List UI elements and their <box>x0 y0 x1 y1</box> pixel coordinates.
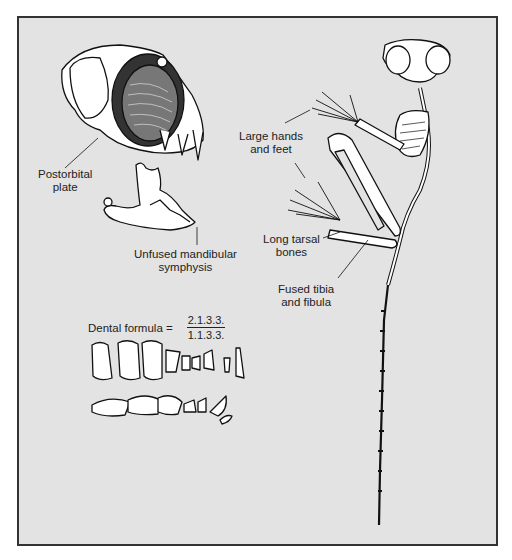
illustration <box>0 0 512 560</box>
label-line: symphysis <box>134 261 237 274</box>
label-line: Postorbital <box>38 168 92 181</box>
label-line: and fibula <box>278 296 334 309</box>
upper-teeth-drawing <box>92 341 244 380</box>
label-line: plate <box>38 181 92 194</box>
dental-formula-label: Dental formula = <box>88 322 173 334</box>
label-postorbital-plate: Postorbital plate <box>38 168 92 194</box>
label-line: Fused tibia <box>278 283 334 296</box>
dental-formula: Dental formula = 2.1.3.3. 1.1.3.3. <box>88 314 225 341</box>
mandible-drawing <box>104 163 195 230</box>
label-line: Unfused mandibular <box>134 248 237 261</box>
skull-drawing <box>62 45 204 160</box>
label-line: Long tarsal <box>263 233 320 246</box>
label-fused-tibia-and-fibula: Fused tibia and fibula <box>278 283 334 309</box>
dental-formula-fraction: 2.1.3.3. 1.1.3.3. <box>187 314 226 341</box>
label-line: bones <box>263 246 320 259</box>
label-large-hands-and-feet: Large hands and feet <box>239 130 303 156</box>
label-line: and feet <box>239 143 303 156</box>
lower-teeth-drawing <box>92 396 232 424</box>
label-line: Large hands <box>239 130 303 143</box>
label-long-tarsal-bones: Long tarsal bones <box>263 233 320 259</box>
dental-formula-lower: 1.1.3.3. <box>188 328 225 341</box>
label-unfused-mandibular-symphysis: Unfused mandibular symphysis <box>134 248 237 274</box>
dental-formula-upper: 2.1.3.3. <box>187 314 226 328</box>
